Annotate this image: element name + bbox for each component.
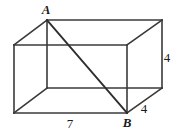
label-length-depth: 4: [141, 101, 148, 116]
label-point-a: A: [41, 2, 51, 17]
diagonal-a-to-b: [47, 20, 127, 113]
edge-depth-bottom-left: [14, 88, 47, 113]
edge-depth-top-right: [127, 20, 162, 45]
box-diagram-svg: A B 7 4 4: [0, 0, 174, 134]
edge-depth-top-left: [14, 20, 47, 45]
label-point-b: B: [122, 115, 132, 130]
geometry-figure: A B 7 4 4: [0, 0, 174, 134]
label-length-right: 4: [164, 50, 171, 65]
label-length-bottom: 7: [67, 116, 74, 131]
